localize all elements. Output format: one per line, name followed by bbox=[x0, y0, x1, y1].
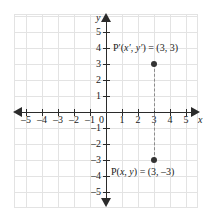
y-axis-tick-label: –2 bbox=[85, 138, 101, 149]
y-axis-label: y bbox=[96, 12, 100, 23]
x-axis-tick-label: 4 bbox=[162, 114, 178, 125]
p-prime-prefix: P′( bbox=[113, 42, 124, 53]
y-axis-tick-label: 2 bbox=[85, 74, 101, 85]
y-axis-tick bbox=[103, 176, 110, 177]
origin-label: 0 bbox=[94, 114, 104, 125]
y-axis-tick bbox=[103, 128, 110, 129]
x-axis-tick-label: –2 bbox=[66, 114, 82, 125]
y-axis-line bbox=[106, 17, 107, 202]
y-axis-tick bbox=[103, 64, 110, 65]
y-axis-tick-label: 4 bbox=[85, 42, 101, 53]
y-axis-tick bbox=[103, 160, 110, 161]
p-suffix: ) = (3, –3) bbox=[134, 166, 175, 177]
y-axis-tick-label: –4 bbox=[85, 170, 101, 181]
x-axis-tick-label: –4 bbox=[34, 114, 50, 125]
y-axis-tick-label: –5 bbox=[85, 186, 101, 197]
grid-border bbox=[14, 207, 198, 208]
x-axis-tick-label: –3 bbox=[50, 114, 66, 125]
data-point-p bbox=[151, 157, 157, 163]
data-point-p-prime bbox=[151, 61, 157, 67]
point-label-p: P(x, y) = (3, –3) bbox=[111, 166, 174, 177]
x-axis-tick-label: 5 bbox=[178, 114, 194, 125]
y-axis-tick bbox=[103, 80, 110, 81]
p-prime-suffix: ) = (3, 3) bbox=[142, 42, 178, 53]
y-axis-tick-label: 5 bbox=[85, 26, 101, 37]
y-axis-tick bbox=[103, 48, 110, 49]
y-axis-arrow-down-icon bbox=[101, 198, 111, 207]
x-axis-tick-label: –5 bbox=[18, 114, 34, 125]
y-axis-tick bbox=[103, 32, 110, 33]
dashed-connector-segment bbox=[154, 64, 155, 160]
x-axis-tick-label: 1 bbox=[114, 114, 130, 125]
y-axis-tick bbox=[103, 96, 110, 97]
y-axis-tick bbox=[103, 144, 110, 145]
y-axis-tick-label: –3 bbox=[85, 154, 101, 165]
x-axis-label: x bbox=[198, 114, 202, 125]
x-axis-tick-label: 2 bbox=[130, 114, 146, 125]
coordinate-plane-figure: –5–4–3–2–11234554321–1–2–3–4–5 0 x y P′(… bbox=[0, 0, 213, 223]
point-label-p-prime: P′(x′, y′) = (3, 3) bbox=[113, 42, 178, 53]
p-prime-var-x: x′ bbox=[124, 42, 131, 53]
p-prefix: P( bbox=[111, 166, 120, 177]
y-axis-tick bbox=[103, 192, 110, 193]
y-axis-tick-label: 1 bbox=[85, 90, 101, 101]
y-axis-arrow-up-icon bbox=[101, 13, 111, 22]
y-axis-tick-label: 3 bbox=[85, 58, 101, 69]
